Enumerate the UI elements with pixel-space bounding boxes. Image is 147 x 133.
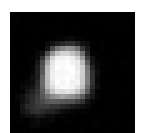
heatmap-canvas <box>10 12 135 133</box>
image-field <box>10 12 135 133</box>
pixel-heatmap <box>10 12 135 133</box>
image-viewport <box>0 0 147 133</box>
